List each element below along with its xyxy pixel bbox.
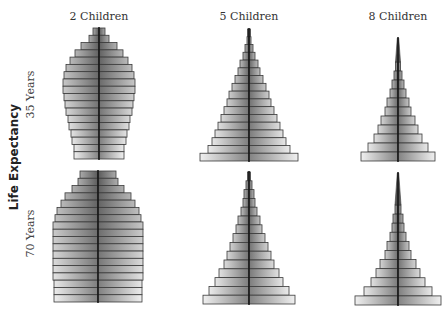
age-bar-left [238,68,249,76]
age-bar-left [236,225,249,234]
age-bar-left [71,130,99,137]
age-bar-left [63,79,99,86]
age-bar-left [361,152,398,161]
age-bar-left [55,215,98,222]
age-bar-left [200,153,249,161]
pyramid-grid [0,0,448,319]
age-bar-left [203,295,249,304]
age-bar-left [53,229,98,236]
age-bar-right [398,143,428,152]
age-bar-left [385,250,398,259]
age-bar-right [99,57,128,64]
age-bar-right [249,225,262,234]
age-bar-right [99,123,129,130]
age-bar-right [398,287,432,296]
age-bar-left [53,244,98,251]
age-bar-left [74,152,99,159]
age-bar-left [93,28,99,35]
age-bar-left [371,278,398,287]
age-bar-left [69,123,99,130]
age-bar-right [98,229,143,236]
age-bar-left [378,125,398,134]
age-bar-left [385,107,398,116]
age-bar-right [249,83,266,91]
age-bar-left [53,251,98,258]
age-bar-right [398,152,435,161]
pyramid-c5_e35 [200,28,298,162]
age-bar-right [249,138,286,146]
age-bar-left [235,76,249,84]
age-bar-left [68,115,99,122]
age-bar-left [243,52,249,60]
age-bar-left [227,251,249,260]
age-bar-left [374,134,398,143]
age-bar-left [89,35,99,42]
age-bar-left [215,130,249,138]
age-bar-left [72,137,99,144]
age-bar-right [98,295,142,302]
age-bar-right [99,79,135,86]
age-bar-left [232,83,249,91]
age-bar-right [99,35,109,42]
age-bar-right [98,178,118,185]
age-bar-right [99,72,134,79]
age-bar-left [209,286,249,295]
age-bar-right [249,76,263,84]
age-bar-left [53,222,98,229]
pyramid-c5_e70 [203,171,295,305]
age-bar-right [99,101,133,108]
age-bar-left [224,107,249,115]
age-bar-right [398,89,406,98]
age-bar-left [368,143,398,152]
age-bar-right [249,190,254,199]
age-bar-left [212,138,249,146]
pyramid-c2_e70 [53,170,143,303]
age-bar-right [99,94,134,101]
age-bar-right [398,214,403,223]
age-bar-left [72,186,98,193]
age-bar-left [53,266,98,273]
age-bar-left [218,122,249,130]
age-bar-left [221,114,249,122]
age-bar-left [61,200,98,207]
age-bar-right [99,64,132,71]
age-bar-left [64,94,99,101]
age-bar-left [240,60,249,68]
pyramid-c8_e35 [361,37,435,162]
age-bar-right [99,28,105,35]
age-bar-left [390,89,398,98]
age-bar-right [98,266,143,273]
age-bar-left [54,295,98,302]
age-bar-right [99,43,117,50]
age-bar-right [99,137,126,144]
age-bar-right [398,223,404,232]
age-bar-left [238,216,249,225]
age-bar-left [387,98,398,107]
age-bar-right [98,251,143,258]
age-bar-right [99,152,124,159]
age-bar-right [249,122,280,130]
age-bar-right [249,52,255,60]
age-bar-left [393,214,398,223]
age-bar-left [392,223,398,232]
age-bar-right [249,145,290,153]
age-bar-right [249,99,271,107]
age-bar-left [390,232,398,241]
age-bar-left [54,287,98,294]
age-bar-right [249,107,274,115]
age-bar-left [244,190,249,199]
age-bar-left [387,241,398,250]
age-bar-right [99,108,132,115]
age-bar-right [98,215,141,222]
age-bar-left [53,258,98,265]
age-bar-left [78,178,98,185]
age-bar-right [98,280,142,287]
age-bar-right [398,116,415,125]
age-bar-right [99,144,124,151]
age-bar-right [398,250,411,259]
age-bar-left [227,99,249,107]
age-bar-left [230,242,249,251]
age-bar-right [249,278,283,287]
age-bar-right [249,153,298,161]
age-bar-left [355,296,398,305]
